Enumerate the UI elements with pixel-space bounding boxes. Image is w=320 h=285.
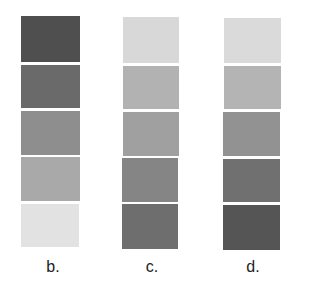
label-d: d. — [233, 258, 273, 276]
column-b — [21, 16, 80, 248]
swatch-b-4 — [21, 157, 80, 201]
swatch-d-4 — [223, 159, 280, 202]
swatch-b-3 — [21, 111, 80, 155]
column-c — [122, 17, 179, 250]
swatch-d-1 — [224, 18, 281, 63]
swatch-d-2 — [224, 66, 281, 109]
label-c: c. — [132, 258, 172, 276]
swatch-d-3 — [223, 112, 280, 156]
swatch-b-1 — [21, 16, 80, 62]
swatch-b-2 — [21, 65, 80, 108]
column-d — [223, 18, 281, 250]
swatch-d-5 — [223, 205, 280, 250]
swatch-c-3 — [123, 112, 179, 156]
swatch-c-5 — [122, 204, 178, 249]
swatch-c-4 — [122, 158, 178, 202]
swatch-b-5 — [21, 204, 79, 247]
swatch-c-1 — [123, 17, 179, 63]
swatch-c-2 — [123, 66, 179, 109]
label-b: b. — [33, 258, 73, 276]
